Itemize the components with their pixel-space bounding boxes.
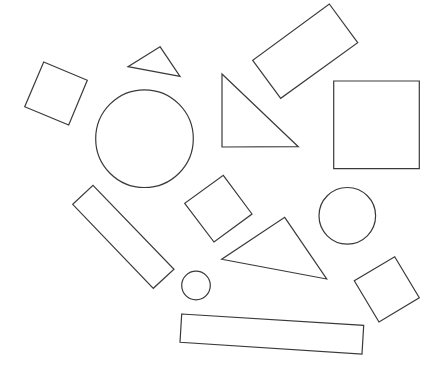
large-circle-circle: [96, 90, 194, 188]
tilted-square-bottom-right-square: [354, 257, 419, 322]
right-triangle-triangle: [222, 74, 298, 147]
middle-triangle-triangle: [222, 217, 327, 279]
shapes-diagram: [0, 0, 444, 373]
shapes-canvas: [0, 0, 444, 373]
long-rectangle-bottom-rectangle: [180, 314, 364, 354]
small-triangle-top-triangle: [128, 47, 180, 77]
axis-aligned-square-square: [334, 81, 420, 169]
tilted-square-left-square: [25, 62, 88, 125]
rotated-rectangle-top-rectangle: [253, 4, 358, 98]
small-circle-circle: [182, 271, 211, 300]
long-tilted-rectangle-rectangle: [73, 185, 174, 288]
diamond-square-center-square: [185, 175, 252, 242]
medium-circle-right-circle: [319, 188, 376, 245]
